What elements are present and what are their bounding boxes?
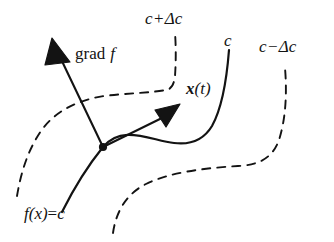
label-c-minus-delta: Δc <box>279 37 297 56</box>
label-level-set-equation: f(x)=c <box>24 205 65 222</box>
label-c-plus-variable: c <box>145 9 153 28</box>
label-x-argument: (t) <box>195 79 211 98</box>
label-c-plus-operator: + <box>153 9 165 28</box>
label-x-vector: x <box>186 79 195 98</box>
label-c-minus-variable: c <box>259 37 267 56</box>
label-level-c: c <box>224 32 232 49</box>
figure-root: c+Δc c c−Δc gradf x(t) f(x)=c <box>0 0 334 242</box>
label-gradient: gradf <box>75 45 115 62</box>
label-equation-relation: = <box>48 204 58 223</box>
label-grad-operator: grad <box>75 44 105 63</box>
label-path-x-of-t: x(t) <box>186 80 211 97</box>
base-point-marker <box>99 143 107 151</box>
label-c-minus-operator: − <box>267 37 279 56</box>
label-c-plus-delta: Δc <box>165 9 183 28</box>
label-equation-left: f(x) <box>24 204 48 223</box>
label-level-c-plus-delta-c: c+Δc <box>145 10 182 27</box>
label-level-c-minus-delta-c: c−Δc <box>259 38 296 55</box>
label-grad-function: f <box>105 44 115 63</box>
label-equation-right: c <box>57 204 65 223</box>
